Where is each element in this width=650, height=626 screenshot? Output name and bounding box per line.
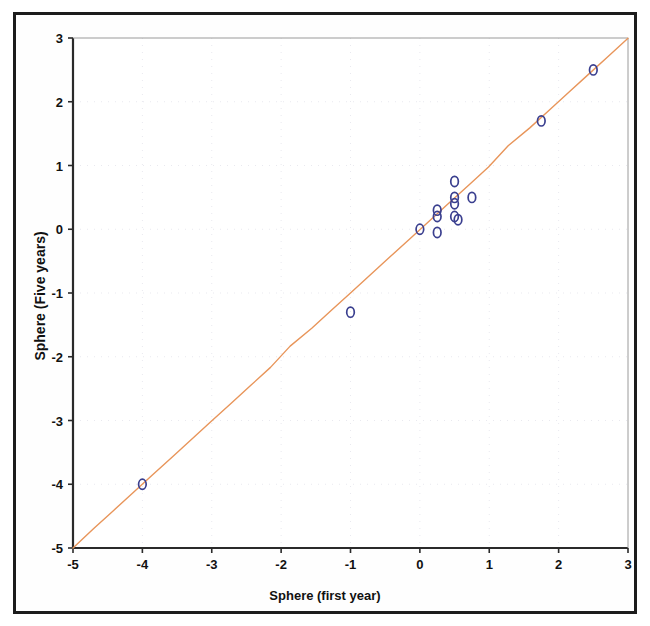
y-tick-label: -1 [51, 286, 63, 301]
y-axis-title: Sphere (Five years) [32, 151, 48, 441]
x-tick-label: -4 [137, 557, 149, 572]
y-tick-label: -2 [51, 350, 63, 365]
x-tick-label: -5 [67, 557, 79, 572]
x-tick-label: 1 [486, 557, 493, 572]
y-tick-label: -4 [51, 477, 63, 492]
x-tick-label: 3 [624, 557, 631, 572]
figure-root: -5-4-3-2-10123-5-4-3-2-10123 Sphere (Fiv… [0, 0, 650, 626]
y-tick-label: -3 [51, 414, 63, 429]
y-tick-label: 3 [56, 31, 63, 46]
x-tick-label: 2 [555, 557, 562, 572]
x-axis-title: Sphere (first year) [0, 588, 650, 603]
x-tick-label: -2 [275, 557, 287, 572]
y-axis-title-container: Sphere (Five years) [0, 0, 50, 626]
y-tick-label: 1 [56, 159, 63, 174]
y-tick-label: 2 [56, 95, 63, 110]
x-tick-label: 0 [416, 557, 423, 572]
x-tick-label: -1 [345, 557, 357, 572]
scatter-chart: -5-4-3-2-10123-5-4-3-2-10123 [0, 0, 650, 626]
y-tick-label: 0 [56, 222, 63, 237]
y-tick-label: -5 [51, 541, 63, 556]
x-tick-label: -3 [206, 557, 218, 572]
